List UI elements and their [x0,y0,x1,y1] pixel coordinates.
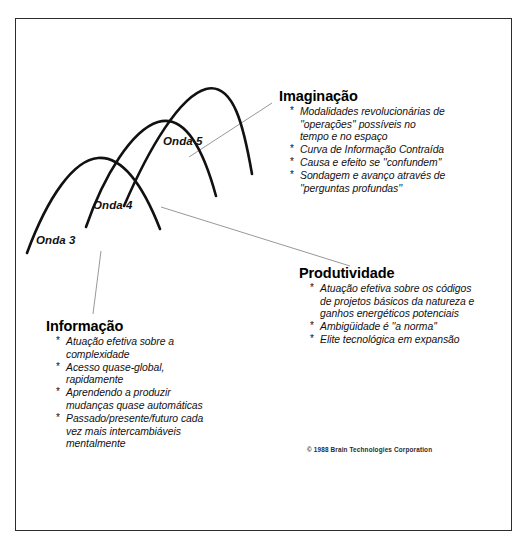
bullet-item: *Sondagem e avanço através de''perguntas… [288,170,494,195]
bullet-marker-icon: * [290,156,294,169]
bullet-line: Atuação efetiva sobre os códigos [320,283,499,296]
bullet-item: *Aprendendo a produzirmudanças quase aut… [54,387,250,412]
bullet-line: Modalidades revolucionárias de [300,106,494,119]
bullet-list-informacao: *Atuação efetiva sobre acomplexidade*Ace… [54,336,250,451]
bullet-marker-icon: * [56,335,60,348]
heading-imaginacao: Imaginação [279,88,494,104]
bullet-line: Curva de Informação Contraída [300,144,494,157]
text-block-produtividade: Produtividade *Atuação efetiva sobre os … [299,265,499,347]
bullet-item: *Modalidades revolucionárias de''operaçõ… [288,106,494,144]
bullet-item: *Atuação efetiva sobre acomplexidade [54,336,250,361]
bullet-marker-icon: * [56,361,60,374]
bullet-list-imaginacao: *Modalidades revolucionárias de''operaçõ… [288,106,494,196]
bullet-marker-icon: * [290,169,294,182]
bullet-line: Aprendendo a produzir [66,387,250,400]
bullet-line: de projetos básicos da natureza e [320,296,499,309]
bullet-item: *Elite tecnológica em expansão [308,334,499,347]
bullet-marker-icon: * [310,333,314,346]
bullet-line: complexidade [66,349,250,362]
bullet-item: *Curva de Informação Contraída [288,144,494,157]
wave-label-onda-3: Onda 3 [36,234,76,246]
bullet-line: Atuação efetiva sobre a [66,336,250,349]
bullet-line: Ambigüidade é ''a norma'' [320,321,499,334]
bullet-marker-icon: * [290,105,294,118]
text-block-imaginacao: Imaginação *Modalidades revolucionárias … [279,88,494,196]
bullet-item: *Ambigüidade é ''a norma'' [308,321,499,334]
bullet-line: mentalmente [66,438,250,451]
bullet-marker-icon: * [56,386,60,399]
bullet-line: ''operações'' possíveis no [300,119,494,132]
bullet-line: Acesso quase-global, [66,362,250,375]
wave-label-onda-4: Onda 4 [93,199,133,211]
bullet-line: tempo e no espaço [300,131,494,144]
bullet-line: vez mais intercambiáveis [66,426,250,439]
bullet-list-produtividade: *Atuação efetiva sobre os códigosde proj… [308,283,499,347]
bullet-line: Sondagem e avanço através de [300,170,494,183]
wave-label-onda-5: Onda 5 [163,135,203,147]
bullet-line: ''perguntas profundas'' [300,183,494,196]
heading-produtividade: Produtividade [299,265,499,281]
bullet-item: *Atuação efetiva sobre os códigosde proj… [308,283,499,321]
text-block-informacao: Informação *Atuação efetiva sobre acompl… [45,318,250,451]
bullet-line: ganhos energéticos potenciais [320,308,499,321]
bullet-marker-icon: * [310,282,314,295]
copyright-notice: © 1988 Brain Technologies Corporation [307,446,432,453]
bullet-line: mudanças quase automáticas [66,400,250,413]
bullet-item: *Passado/presente/futuro cadavez mais in… [54,413,250,451]
bullet-marker-icon: * [310,320,314,333]
bullet-item: *Causa e efeito se ''confundem'' [288,157,494,170]
bullet-marker-icon: * [56,412,60,425]
bullet-line: Elite tecnológica em expansão [320,334,499,347]
diagram-canvas: Onda 3 Onda 4 Onda 5 Imaginação *Modalid… [0,0,528,546]
bullet-line: Causa e efeito se ''confundem'' [300,157,494,170]
bullet-marker-icon: * [290,143,294,156]
bullet-line: rapidamente [66,374,250,387]
bullet-line: Passado/presente/futuro cada [66,413,250,426]
bullet-item: *Acesso quase-global,rapidamente [54,362,250,387]
heading-informacao: Informação [46,318,250,334]
